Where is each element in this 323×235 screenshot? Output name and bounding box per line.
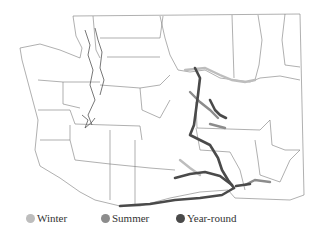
- waterway-summer: [190, 92, 270, 185]
- legend-item-winter: Winter: [26, 212, 67, 224]
- legend-item-year-round: Year-round: [176, 212, 236, 224]
- county-boundaries: [20, 14, 304, 206]
- washington-map: [0, 0, 323, 210]
- summer-swatch-icon: [101, 214, 110, 223]
- legend-label: Year-round: [187, 212, 236, 224]
- legend-label: Winter: [37, 212, 67, 224]
- winter-swatch-icon: [26, 214, 35, 223]
- year-round-swatch-icon: [176, 214, 185, 223]
- puget-sound-waters: [82, 28, 104, 128]
- legend-label: Summer: [112, 212, 149, 224]
- waterway-year-round: [120, 68, 250, 206]
- map-legend: Winter Summer Year-round: [26, 212, 316, 228]
- legend-item-summer: Summer: [101, 212, 149, 224]
